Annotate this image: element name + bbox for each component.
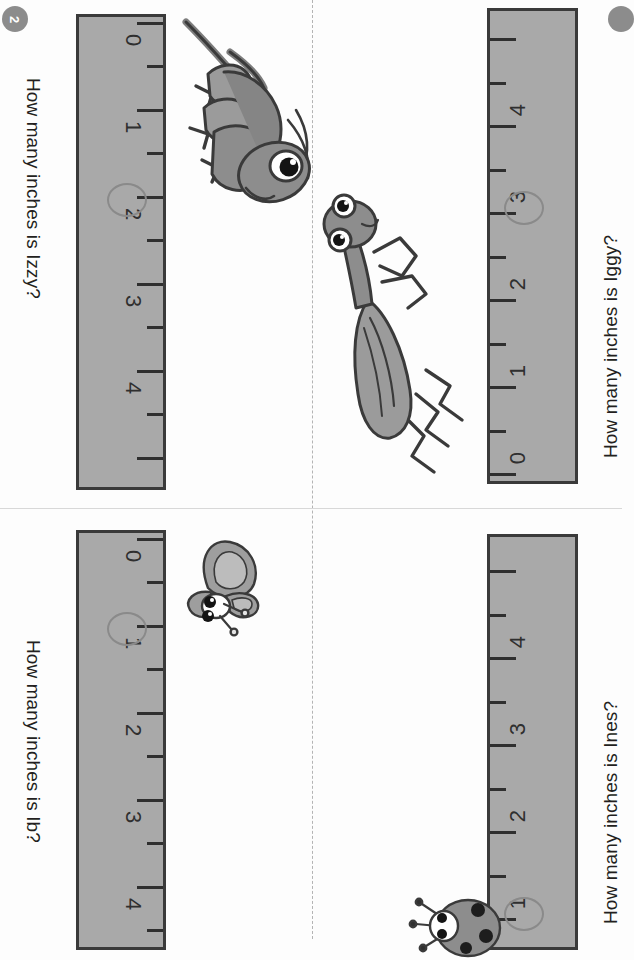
ruler-tick-1 <box>490 386 516 389</box>
ruler-tick-half-0 <box>490 430 506 433</box>
horizontal-divider <box>0 508 622 509</box>
ruler-tick-half-0 <box>147 65 163 68</box>
ruler-ines: 1 2 3 4 <box>487 534 578 950</box>
ruler-tick-4 <box>137 370 163 373</box>
ruler-tick-3 <box>137 799 163 802</box>
ruler-tick-2 <box>137 712 163 715</box>
answer-circle-ib <box>107 612 147 646</box>
ruler-tick-half-2 <box>490 788 506 791</box>
ruler-number-4: 4 <box>507 104 529 116</box>
answer-circle-iggy <box>504 191 544 225</box>
ruler-izzy: 0 1 2 3 4 <box>76 14 166 490</box>
ruler-tick-5 <box>490 38 516 41</box>
ruler-tick-5 <box>137 457 163 460</box>
ruler-tick-half-2 <box>147 239 163 242</box>
ruler-tick-4 <box>490 657 516 660</box>
ruler-tick-half-3 <box>490 169 506 172</box>
ruler-number-4: 4 <box>122 898 144 910</box>
grasshopper-icon <box>168 12 318 222</box>
question-izzy: How many inches is Izzy? <box>22 78 44 299</box>
ruler-tick-4 <box>137 886 163 889</box>
ruler-number-2: 2 <box>122 724 144 736</box>
ruler-tick-0 <box>137 538 163 541</box>
ruler-number-0: 0 <box>122 550 144 562</box>
ruler-number-3: 3 <box>122 811 144 823</box>
page-number-badge: 2 <box>2 6 28 32</box>
ruler-iggy: 0 1 2 3 4 <box>487 8 578 484</box>
ruler-tick-4 <box>490 125 516 128</box>
ruler-tick-0 <box>490 473 516 476</box>
ruler-tick-5 <box>490 570 516 573</box>
ruler-tick-3 <box>490 744 516 747</box>
ruler-number-1: 1 <box>122 121 144 133</box>
ruler-number-0: 0 <box>507 452 529 464</box>
ruler-tick-half-4 <box>147 929 163 932</box>
ruler-number-2: 2 <box>507 278 529 290</box>
ruler-tick-half-2 <box>490 256 506 259</box>
ruler-tick-half-4 <box>147 413 163 416</box>
ruler-tick-half-0 <box>147 581 163 584</box>
praying-mantis-icon <box>330 190 490 480</box>
ruler-tick-half-4 <box>490 82 506 85</box>
ruler-tick-3 <box>137 283 163 286</box>
ruler-tick-half-3 <box>490 701 506 704</box>
ruler-tick-half-1 <box>490 875 506 878</box>
ruler-number-1: 1 <box>507 365 529 377</box>
ruler-tick-half-4 <box>490 614 506 617</box>
ruler-tick-half-1 <box>147 668 163 671</box>
page-number-label: 2 <box>8 15 21 22</box>
ruler-tick-0 <box>137 22 163 25</box>
page-number-badge-partial <box>608 6 634 32</box>
ruler-number-3: 3 <box>122 295 144 307</box>
ruler-tick-1 <box>137 109 163 112</box>
ruler-number-3: 3 <box>507 723 529 735</box>
question-ib: How many inches is Ib? <box>22 640 44 843</box>
ruler-tick-half-1 <box>147 152 163 155</box>
answer-circle-izzy <box>107 183 147 217</box>
ruler-tick-2 <box>490 299 516 302</box>
ruler-number-2: 2 <box>507 810 529 822</box>
ruler-tick-half-3 <box>147 326 163 329</box>
ruler-number-4: 4 <box>507 636 529 648</box>
ruler-number-0: 0 <box>122 34 144 46</box>
butterfly-icon <box>174 534 270 638</box>
ruler-number-4: 4 <box>122 382 144 394</box>
ruler-tick-half-2 <box>147 755 163 758</box>
answer-circle-ines <box>504 897 544 931</box>
ruler-ib: 0 1 2 3 4 <box>76 530 166 950</box>
ruler-tick-half-3 <box>147 842 163 845</box>
ladybug-icon <box>406 890 506 960</box>
question-iggy: How many inches is Iggy? <box>600 235 622 458</box>
ruler-tick-half-1 <box>490 343 506 346</box>
question-ines: How many inches is Ines? <box>600 701 622 924</box>
ruler-tick-2 <box>490 831 516 834</box>
